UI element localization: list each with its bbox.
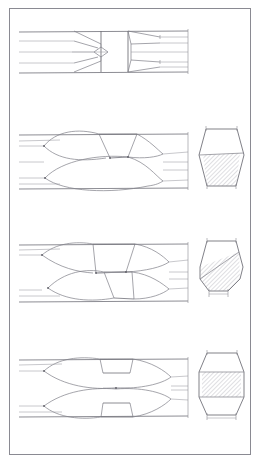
row-2-cross-section: [196, 126, 248, 190]
row-3-cross-section: [196, 238, 248, 297]
row-3-flow-diagram: [19, 242, 188, 303]
drawing-surface: [0, 0, 260, 463]
row-2-flow-diagram: [19, 131, 188, 191]
row-4-flow-diagram: [19, 357, 188, 418]
row-4-cross-section: [196, 350, 248, 420]
figure-canvas: [0, 0, 260, 463]
figure-page: Metal forming flow-pattern figure Scanne…: [0, 0, 260, 463]
row-1-flow-diagram: [19, 29, 188, 74]
